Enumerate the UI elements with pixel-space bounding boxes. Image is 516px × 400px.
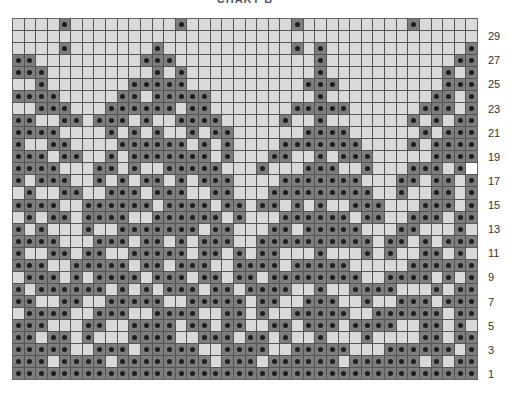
stitch-cell-contrast [176,175,187,186]
stitch-cell-main [222,212,233,223]
stitch-cell-main [385,296,396,307]
stitch-cell-contrast [141,356,152,367]
stitch-cell-main [83,163,94,174]
stitch-cell-main [420,67,431,78]
stitch-cell-contrast [327,127,338,138]
stitch-cell-contrast [222,332,233,343]
stitch-cell-contrast [339,103,350,114]
stitch-cell-contrast [327,224,338,235]
stitch-cell-main [350,296,361,307]
stitch-cell-contrast [141,284,152,295]
stitch-cell-contrast [269,200,280,211]
stitch-cell-contrast [315,200,326,211]
stitch-cell-main [397,43,408,54]
stitch-cell-main [362,55,373,66]
stitch-cell-contrast [432,308,443,319]
stitch-cell-main [234,175,245,186]
stitch-cell-main [234,79,245,90]
stitch-cell-main [246,115,257,126]
stitch-cell-contrast [466,151,477,162]
stitch-cell-main [339,320,350,331]
stitch-cell-contrast [443,127,454,138]
stitch-cell-main [420,224,431,235]
stitch-cell-contrast [385,368,396,379]
stitch-cell-contrast [176,187,187,198]
stitch-cell-main [106,31,117,42]
stitch-cell-contrast [315,91,326,102]
stitch-cell-main [304,151,315,162]
stitch-cell-main [234,284,245,295]
stitch-cell-contrast [280,284,291,295]
stitch-cell-contrast [187,212,198,223]
stitch-cell-contrast [48,212,59,223]
stitch-cell-main [397,163,408,174]
stitch-cell-contrast [432,103,443,114]
stitch-cell-contrast [25,67,36,78]
stitch-cell-main [234,115,245,126]
stitch-cell-main [199,43,210,54]
stitch-cell-contrast [222,175,233,186]
stitch-cell-main [83,91,94,102]
stitch-cell-contrast [13,236,24,247]
stitch-cell-contrast [327,212,338,223]
stitch-cell-main [466,163,477,174]
stitch-cell-main [280,67,291,78]
stitch-cell-main [246,103,257,114]
stitch-cell-main [385,91,396,102]
stitch-cell-main [304,55,315,66]
stitch-cell-main [420,31,431,42]
stitch-cell-main [199,79,210,90]
stitch-cell-contrast [408,115,419,126]
stitch-cell-contrast [315,163,326,174]
stitch-cell-main [141,31,152,42]
stitch-cell-contrast [153,91,164,102]
stitch-cell-contrast [153,248,164,259]
stitch-cell-main [455,344,466,355]
stitch-cell-main [339,296,350,307]
stitch-cell-contrast [280,368,291,379]
stitch-cell-main [153,19,164,30]
row-label: 3 [488,344,494,356]
stitch-cell-contrast [141,260,152,271]
stitch-cell-contrast [141,320,152,331]
stitch-cell-contrast [222,368,233,379]
stitch-cell-main [164,260,175,271]
stitch-cell-contrast [234,200,245,211]
stitch-cell-contrast [83,248,94,259]
stitch-cell-contrast [13,200,24,211]
stitch-cell-main [141,67,152,78]
stitch-cell-main [373,163,384,174]
stitch-cell-contrast [187,260,198,271]
stitch-cell-main [443,115,454,126]
stitch-cell-main [222,103,233,114]
stitch-cell-contrast [455,55,466,66]
stitch-cell-main [257,67,268,78]
stitch-cell-main [246,139,257,150]
stitch-cell-contrast [187,103,198,114]
stitch-cell-contrast [211,296,222,307]
stitch-cell-contrast [60,296,71,307]
stitch-cell-contrast [176,284,187,295]
stitch-cell-contrast [211,368,222,379]
stitch-cell-contrast [339,308,350,319]
stitch-cell-contrast [432,163,443,174]
stitch-cell-contrast [153,127,164,138]
stitch-cell-main [397,31,408,42]
stitch-cell-main [164,175,175,186]
stitch-cell-contrast [13,55,24,66]
stitch-cell-main [106,224,117,235]
stitch-cell-main [129,19,140,30]
stitch-cell-contrast [327,308,338,319]
stitch-cell-main [257,79,268,90]
stitch-cell-main [141,163,152,174]
stitch-cell-main [246,55,257,66]
stitch-cell-main [385,139,396,150]
stitch-cell-contrast [141,175,152,186]
stitch-cell-contrast [327,139,338,150]
stitch-cell-main [373,19,384,30]
stitch-cell-main [466,31,477,42]
stitch-cell-main [234,127,245,138]
stitch-cell-contrast [60,187,71,198]
stitch-cell-main [397,115,408,126]
stitch-cell-contrast [211,163,222,174]
